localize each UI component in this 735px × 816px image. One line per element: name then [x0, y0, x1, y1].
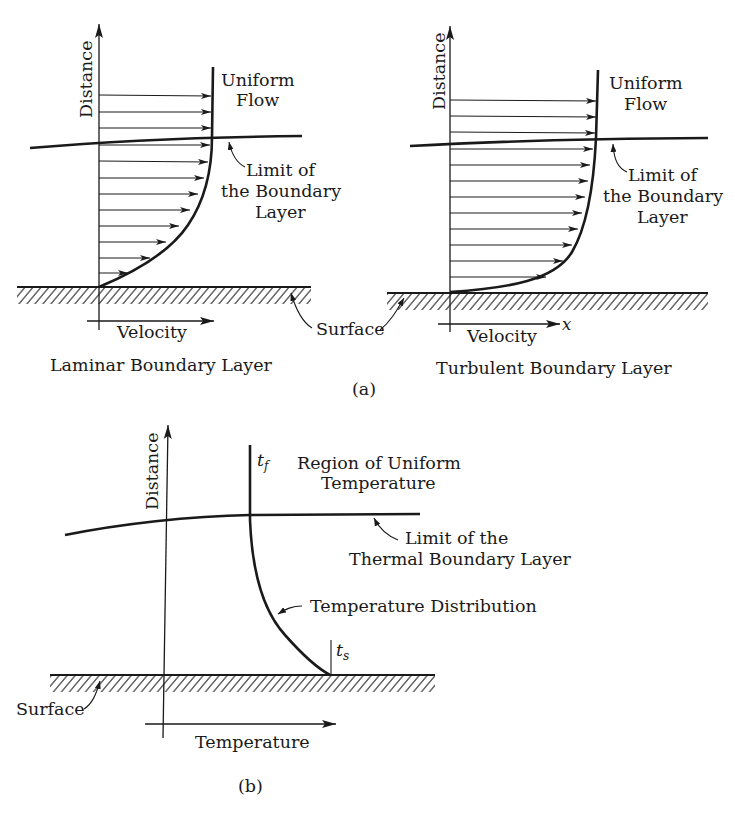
- thermal-limit-leader: [374, 518, 398, 540]
- turbulent-boundary-limit-line: [410, 138, 708, 146]
- surface-label-b: Surface: [16, 699, 85, 719]
- laminar-surface: [17, 287, 311, 304]
- surface-label-a: Surface: [316, 319, 385, 339]
- turbulent-uniform-flow-line2: Flow: [624, 94, 667, 114]
- temperature-distribution-curve: [250, 445, 330, 675]
- turbulent-uniform-flow-line1: Uniform: [609, 73, 683, 93]
- tf-label: tf: [257, 450, 271, 473]
- thermal-diagram: Distance tf ts Region of Uniform Tempera…: [16, 425, 572, 752]
- laminar-uniform-flow-line2: Flow: [236, 90, 279, 110]
- laminar-uniform-flow-line1: Uniform: [221, 70, 295, 90]
- distribution-label: Temperature Distribution: [310, 596, 537, 616]
- turbulent-limit-line3: Layer: [637, 207, 688, 227]
- thermal-limit-line1: Limit of the: [405, 528, 508, 548]
- turbulent-title: Turbulent Boundary Layer: [436, 358, 672, 378]
- turbulent-surface: [387, 293, 708, 310]
- thermal-limit-line2: Thermal Boundary Layer: [349, 549, 572, 569]
- laminar-diagram: Distance Uniform Flow Limit of the Bound…: [17, 24, 341, 375]
- turbulent-limit-line2: the Boundary: [603, 186, 723, 206]
- distribution-leader: [278, 606, 302, 614]
- laminar-velocity-profile: [99, 67, 213, 287]
- turbulent-x-axis-label: Velocity: [466, 326, 537, 346]
- turbulent-limit-line1: Limit of: [628, 165, 699, 185]
- laminar-limit-line1: Limit of: [246, 160, 317, 180]
- laminar-velocity-arrows: [99, 95, 211, 273]
- ts-label: ts: [336, 640, 349, 663]
- turbulent-diagram: Distance Uniform Flow Limit of the Bound…: [380, 26, 723, 378]
- laminar-y-axis-label: Distance: [76, 40, 96, 118]
- turbulent-y-axis-label: Distance: [429, 32, 449, 110]
- laminar-x-axis-label: Velocity: [116, 322, 187, 342]
- thermal-y-axis-label: Distance: [142, 432, 162, 510]
- region-label-line1: Region of Uniform: [297, 453, 461, 473]
- laminar-limit-line3: Layer: [255, 202, 306, 222]
- thermal-x-axis-label: Temperature: [195, 732, 310, 752]
- thermal-surface: [50, 675, 435, 692]
- caption-b: (b): [238, 776, 263, 796]
- thermal-boundary-limit-line: [65, 514, 420, 535]
- laminar-boundary-limit-line: [30, 136, 302, 148]
- region-label-line2: Temperature: [321, 473, 436, 493]
- caption-a: (a): [352, 379, 376, 399]
- turbulent-x-symbol: x: [562, 315, 572, 334]
- laminar-limit-line2: the Boundary: [221, 181, 341, 201]
- turbulent-limit-leader: [613, 144, 627, 172]
- laminar-limit-leader: [229, 142, 245, 167]
- laminar-title: Laminar Boundary Layer: [50, 355, 273, 375]
- boundary-layer-figure: Distance Uniform Flow Limit of the Bound…: [0, 0, 735, 816]
